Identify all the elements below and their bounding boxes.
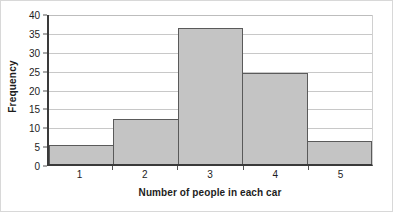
x-tick-label: 5 (308, 169, 373, 180)
bar (178, 28, 243, 164)
y-tick-label: 35 (29, 28, 40, 39)
x-axis-tick-labels: 12345 (47, 169, 373, 180)
bar-series (49, 15, 372, 164)
bar (307, 141, 372, 164)
y-axis-title-text: Frequency (7, 60, 18, 112)
bar (49, 145, 114, 164)
y-axis-title: Frequency (3, 1, 21, 171)
y-axis-tick-labels: 0510152025303540 (21, 10, 43, 166)
y-tick-label: 30 (29, 47, 40, 58)
x-tick-label: 1 (47, 169, 112, 180)
plot-area (47, 15, 373, 166)
bar (113, 119, 178, 164)
y-tick-label: 20 (29, 85, 40, 96)
x-axis-title: Number of people in each car (47, 187, 373, 198)
bar (242, 73, 307, 164)
y-tick-label: 0 (34, 161, 40, 172)
y-tick-label: 10 (29, 123, 40, 134)
y-tick-label: 5 (34, 142, 40, 153)
y-tick-label: 15 (29, 104, 40, 115)
x-tick-label: 4 (243, 169, 308, 180)
x-tick-label: 2 (112, 169, 177, 180)
x-tick-label: 3 (177, 169, 242, 180)
y-tick-label: 25 (29, 66, 40, 77)
histogram-figure: Frequency 0510152025303540 12345 Number … (0, 0, 393, 212)
y-tick-label: 40 (29, 10, 40, 21)
